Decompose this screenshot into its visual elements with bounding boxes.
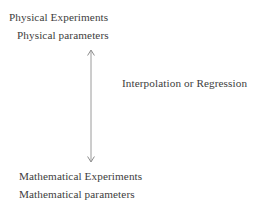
top-block-line-1: Physical Experiments	[9, 8, 109, 26]
top-block-line-2: Physical parameters	[9, 26, 109, 44]
diagram-canvas: Physical Experiments Physical parameters…	[0, 0, 274, 212]
connector-label: Interpolation or Regression	[122, 78, 247, 89]
bottom-block-line-2: Mathematical parameters	[9, 185, 142, 203]
top-text-block: Physical Experiments Physical parameters	[9, 8, 109, 44]
bottom-block-line-1: Mathematical Experiments	[9, 167, 142, 185]
bottom-text-block: Mathematical Experiments Mathematical pa…	[9, 167, 142, 203]
double-headed-vertical-arrow-icon	[79, 46, 103, 166]
double-headed-vertical-arrow	[79, 46, 103, 166]
